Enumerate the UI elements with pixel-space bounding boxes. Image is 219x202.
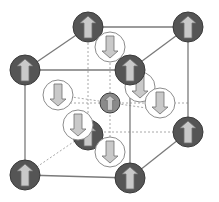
atom-body-center [100,93,120,113]
atom-front-bottom-left [10,160,40,190]
atom-front-bottom-right [115,163,145,193]
cube-edge [25,175,130,178]
spin-lattice-diagram [0,0,219,202]
unit-cell-canvas [0,0,219,202]
atom-front-top-left [10,55,40,85]
atom-face-left [43,80,73,110]
atoms [10,12,203,193]
atom-back-bottom-right [173,117,203,147]
atom-face-top [95,32,125,62]
atom-face-right [145,88,175,118]
atom-front-top-right [115,55,145,85]
atom-face-bottom [95,137,125,167]
atom-face-front [63,110,93,140]
atom-back-top-right [173,12,203,42]
